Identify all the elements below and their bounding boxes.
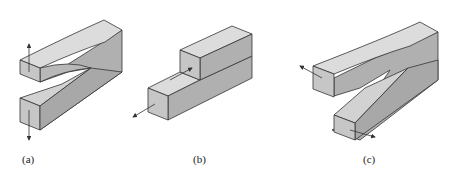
panel-a-specimen [20, 20, 122, 130]
panel-c-specimen [313, 22, 438, 140]
fracture-modes-diagram [0, 0, 458, 181]
panel-c-label: (c) [363, 153, 375, 165]
panel-b-specimen [148, 26, 252, 120]
panel-b-label: (b) [193, 153, 206, 165]
panel-a-label: (a) [22, 153, 34, 165]
